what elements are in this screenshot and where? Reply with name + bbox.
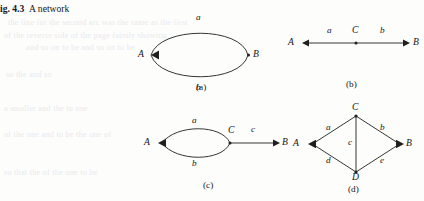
node-label-b: B (406, 137, 412, 148)
edge-b-curve (162, 143, 230, 157)
edge-e-line (356, 145, 398, 172)
arrowhead-icon (308, 140, 316, 148)
node-dot-c (354, 114, 357, 117)
figure-page: the line for the second arc was the same… (0, 0, 424, 201)
panel-d: C A B D a b c d e (300, 110, 412, 178)
node-label-a: A (288, 36, 294, 47)
edge-label-a: a (327, 25, 332, 35)
figure-caption: ig. 4.3 A network (0, 3, 69, 14)
node-label-a: A (293, 137, 299, 148)
node-label-a: A (144, 136, 150, 147)
panel-d-graph (300, 110, 412, 178)
panel-b: A C B a b (296, 30, 416, 56)
panel-label-a: (a) (196, 82, 206, 92)
panel-c-graph (152, 118, 288, 168)
node-label-c: C (228, 124, 234, 135)
panel-c: A C B a b c (152, 118, 288, 168)
panel-label-c: (c) (203, 180, 213, 190)
arrowhead-icon (403, 40, 410, 47)
node-dot-c (229, 142, 232, 145)
bleed-through-text: so that the of the one to be (4, 168, 98, 177)
bleed-through-text: and so on to be and so on to be (26, 43, 135, 52)
figure-caption-text: A network (29, 3, 69, 14)
node-label-b: B (253, 48, 259, 59)
panel-label-d: (d) (348, 184, 359, 194)
arrowhead-icon (158, 139, 166, 147)
node-label-d: D (352, 171, 359, 182)
node-label-c: C (352, 101, 358, 112)
node-label-b: B (413, 36, 419, 47)
arrowhead-icon (396, 140, 404, 148)
edge-b-line (356, 116, 398, 143)
bleed-through-text: of the one and to be the one of (4, 130, 111, 139)
edge-label-d: d (326, 155, 331, 165)
arrowhead-icon (302, 40, 309, 47)
edge-b-curve (151, 55, 248, 77)
edge-label-c: c (251, 124, 255, 134)
figure-number: ig. 4.3 (0, 3, 24, 14)
node-label-a: A (138, 48, 144, 59)
edge-label-a: a (192, 115, 197, 125)
arrowhead-icon (273, 140, 280, 147)
edge-label-c: c (348, 137, 352, 147)
edge-d-line (314, 145, 356, 172)
bleed-through-text: so the and so (6, 70, 52, 79)
edge-a-curve (151, 33, 248, 55)
edge-a-curve (162, 129, 230, 143)
node-dot-c (355, 42, 358, 45)
node-label-b: B (282, 136, 288, 147)
node-dot-b (247, 54, 250, 57)
edge-label-b: b (192, 158, 197, 168)
edge-label-b: b (380, 25, 385, 35)
edge-label-a: a (326, 122, 331, 132)
panel-label-b: (b) (346, 79, 357, 89)
edge-label-e: e (380, 155, 384, 165)
bleed-through-text: a smaller and the to one (4, 104, 88, 113)
edge-label-b: b (380, 122, 385, 132)
node-label-c: C (352, 24, 358, 35)
edge-label-a: a (196, 12, 201, 22)
